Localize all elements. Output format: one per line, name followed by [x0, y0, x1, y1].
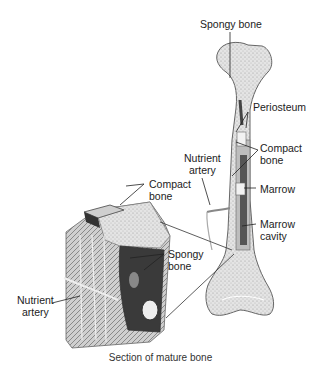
bone-section-block — [64, 202, 170, 348]
femur-illustration — [206, 42, 274, 315]
label-nutrient-artery-top: Nutrient artery — [184, 152, 221, 176]
label-compact-bone-right: Compact bone — [260, 142, 302, 166]
label-periosteum: Periosteum — [253, 101, 306, 113]
label-marrow: Marrow — [260, 183, 295, 195]
label-nutrient-artery-left: Nutrient artery — [17, 294, 54, 318]
label-compact-bone-left: Compact bone — [149, 178, 191, 202]
label-spongy-bone-left: Spongy bone — [168, 248, 204, 272]
figure-caption: Section of mature bone — [0, 352, 321, 363]
label-spongy-bone-top: Spongy bone — [200, 18, 262, 30]
label-marrow-cavity: Marrow cavity — [260, 218, 295, 242]
